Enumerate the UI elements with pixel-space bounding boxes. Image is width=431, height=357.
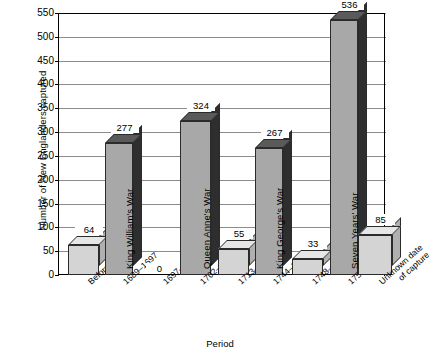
bar-value-label: 55 — [225, 228, 253, 239]
bar-value-label: 536 — [336, 0, 364, 10]
y-tick-label: 350 — [2, 102, 54, 113]
y-tick-mark — [55, 61, 59, 62]
y-tick-mark — [55, 132, 59, 133]
y-tick-mark — [55, 37, 59, 38]
y-tick-mark — [55, 204, 59, 205]
bar-value-label: 324 — [187, 100, 215, 111]
y-tick-label: 50 — [2, 245, 54, 256]
y-tick-mark — [55, 227, 59, 228]
y-tick-mark — [55, 156, 59, 157]
y-tick-label: 550 — [2, 7, 54, 18]
y-tick-mark — [55, 275, 59, 276]
bar-value-label: 85 — [367, 214, 395, 225]
y-tick-label: 450 — [2, 55, 54, 66]
war-period-label: King William's War — [124, 189, 135, 269]
y-tick-label: 400 — [2, 78, 54, 89]
y-tick-mark — [55, 251, 59, 252]
y-tick-label: 250 — [2, 150, 54, 161]
war-period-label: King George's War — [274, 188, 285, 269]
y-tick-label: 0 — [2, 269, 54, 280]
y-tick-label: 200 — [2, 174, 54, 185]
y-tick-label: 500 — [2, 31, 54, 42]
y-tick-label: 150 — [2, 198, 54, 209]
y-tick-mark — [55, 180, 59, 181]
x-axis-title: Period — [60, 338, 380, 349]
bar-value-label: 267 — [261, 127, 289, 138]
bar-value-label: 277 — [111, 122, 139, 133]
bar-side-face — [211, 103, 220, 266]
bar-value-label: 64 — [75, 224, 103, 235]
y-tick-label: 100 — [2, 221, 54, 232]
y-tick-mark — [55, 84, 59, 85]
y-tick-mark — [55, 108, 59, 109]
war-period-label: Queen Anne's War — [201, 188, 212, 269]
y-tick-label: 300 — [2, 126, 54, 137]
bar-value-label: 33 — [299, 238, 327, 249]
